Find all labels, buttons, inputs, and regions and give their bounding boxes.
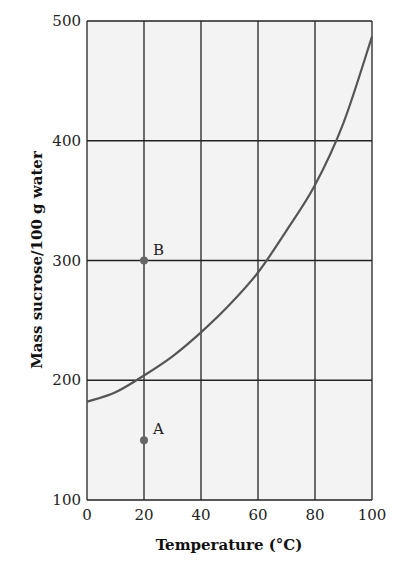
x-tick-label: 40 <box>191 506 210 524</box>
x-tick-label: 0 <box>82 506 92 524</box>
x-axis-title: Temperature (°C) <box>156 536 303 554</box>
y-tick-label: 500 <box>52 12 81 30</box>
point-b-label: B <box>153 241 164 259</box>
point-a-label: A <box>152 420 164 438</box>
y-tick-label: 200 <box>52 371 81 389</box>
y-tick-label: 100 <box>52 491 81 509</box>
x-tick-label: 80 <box>305 506 324 524</box>
sucrose-solubility-chart: 100200300400500 020406080100 BA Temperat… <box>0 0 404 578</box>
y-tick-label: 400 <box>52 132 81 150</box>
x-tick-label: 20 <box>134 506 153 524</box>
x-axis-ticks: 020406080100 <box>82 506 386 524</box>
x-tick-label: 60 <box>248 506 267 524</box>
point-b-marker <box>140 257 148 265</box>
y-axis-ticks: 100200300400500 <box>52 12 81 509</box>
y-axis-title: Mass sucrose/100 g water <box>28 150 46 369</box>
y-tick-label: 300 <box>52 252 81 270</box>
x-tick-label: 100 <box>358 506 387 524</box>
point-a-marker <box>140 436 148 444</box>
